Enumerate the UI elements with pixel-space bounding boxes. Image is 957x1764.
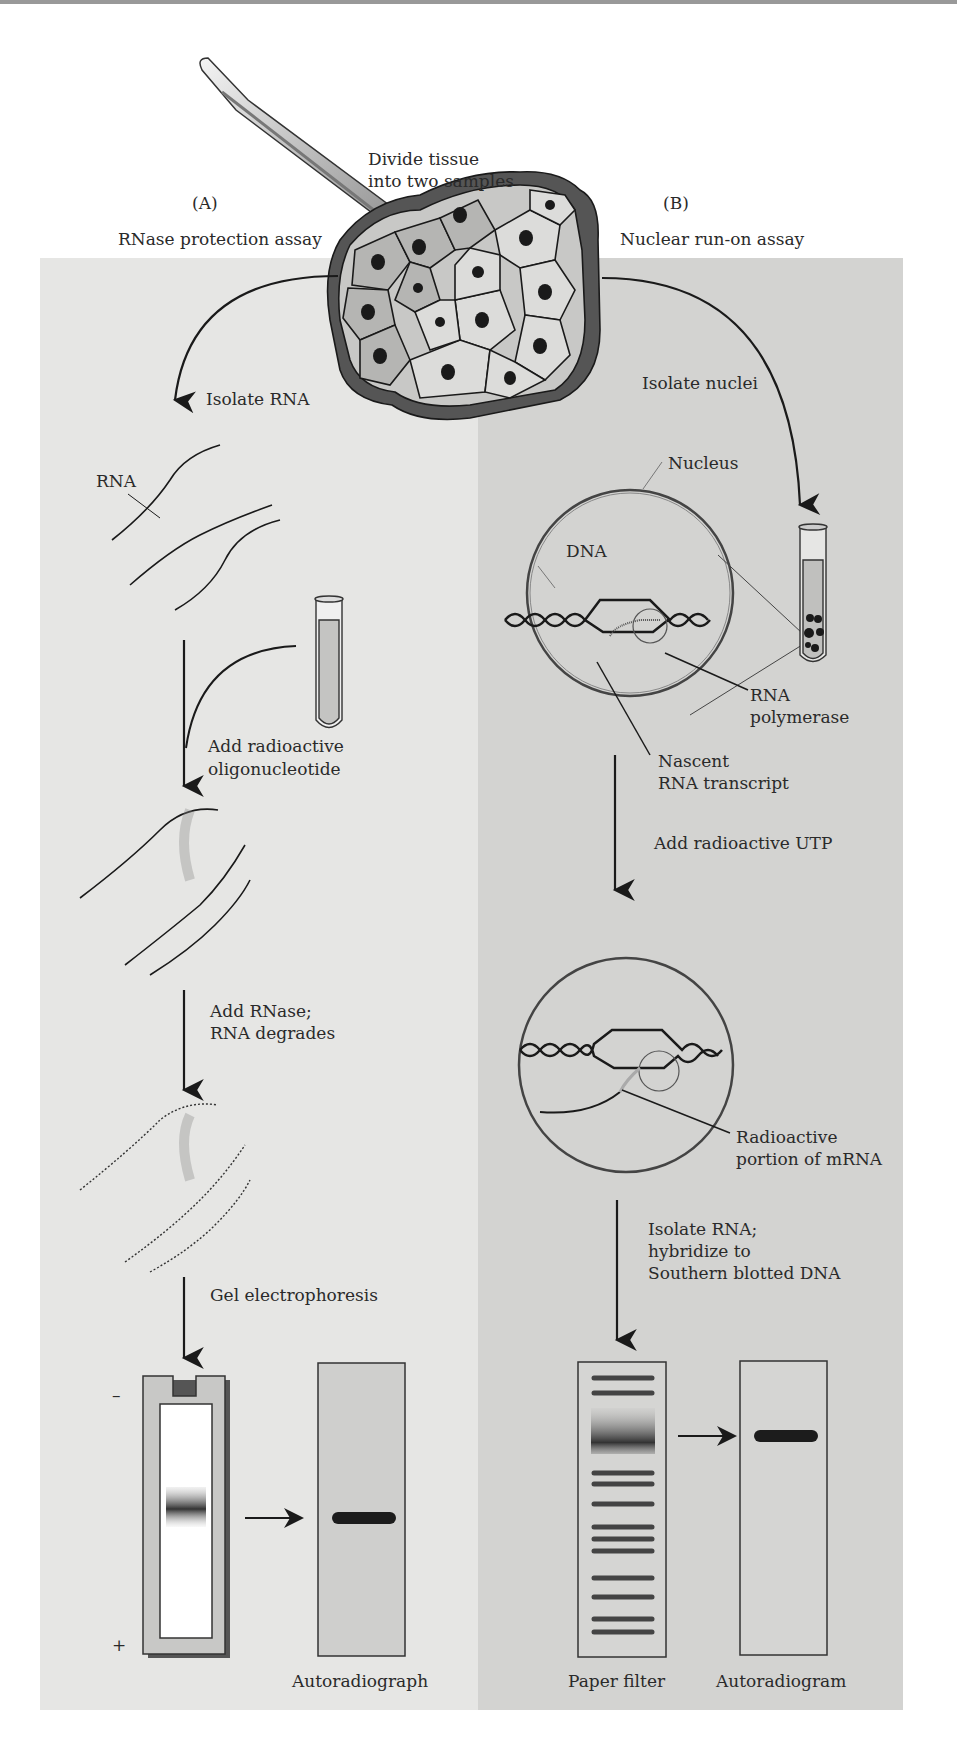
arrow-tube-merge — [186, 646, 296, 748]
rna-leader-line — [128, 494, 160, 518]
arrow-isolate-rna — [175, 276, 338, 400]
gel-minus-sign: – — [112, 1384, 121, 1406]
step-add-utp: Add radioactive UTP — [654, 832, 832, 854]
diagram-artwork — [0, 0, 957, 1764]
radioactive-mrna-label-1: Radioactive — [736, 1126, 837, 1148]
autoradiogram-label: Autoradiogram — [716, 1670, 846, 1692]
panel-b-title: Nuclear run-on assay — [620, 228, 804, 250]
step-hybridize-line-2: hybridize to — [648, 1240, 751, 1262]
nascent-transcript-label-2: RNA transcript — [658, 772, 789, 794]
step-add-oligo-line-2: oligonucleotide — [208, 758, 341, 780]
dna-helix-icon — [505, 600, 710, 632]
panel-b-letter: (B) — [663, 192, 689, 214]
autoradiogram-film-icon — [740, 1361, 827, 1655]
step-gel-electrophoresis: Gel electrophoresis — [210, 1284, 378, 1306]
oligo-tube-icon — [315, 596, 343, 728]
nascent-transcript-label-1: Nascent — [658, 750, 729, 772]
title-line-1: Divide tissue — [368, 148, 479, 170]
paper-filter-icon — [578, 1362, 666, 1657]
step-isolate-nuclei: Isolate nuclei — [642, 372, 758, 394]
nucleus-icon — [527, 462, 802, 715]
step-add-rnase-line-2: RNA degrades — [210, 1022, 335, 1044]
nucleus-label: Nucleus — [668, 452, 739, 474]
degraded-rna-icon — [80, 1104, 250, 1272]
rna-strands-icon — [112, 445, 280, 610]
step-isolate-rna: Isolate RNA — [206, 388, 310, 410]
autoradiograph-label: Autoradiograph — [292, 1670, 428, 1692]
step-hybridize-line-3: Southern blotted DNA — [648, 1262, 841, 1284]
gel-plus-sign: + — [112, 1634, 126, 1656]
rna-hybrid-icon — [80, 809, 250, 975]
rna-label: RNA — [96, 470, 136, 492]
step-add-oligo-line-1: Add radioactive — [208, 735, 344, 757]
step-add-rnase-line-1: Add RNase; — [210, 1000, 312, 1022]
panel-a-letter: (A) — [192, 192, 218, 214]
title-line-2: into two samples — [368, 170, 514, 192]
paper-filter-label: Paper filter — [568, 1670, 665, 1692]
dna-label: DNA — [566, 540, 607, 562]
autoradiograph-film-icon — [318, 1363, 405, 1656]
panel-a-title: RNase protection assay — [118, 228, 322, 250]
gel-cassette-icon — [143, 1376, 230, 1658]
nucleus-radioactive-icon — [519, 958, 733, 1172]
rna-polymerase-label-2: polymerase — [750, 706, 849, 728]
step-hybridize-line-1: Isolate RNA; — [648, 1218, 757, 1240]
radioactive-mrna-label-2: portion of mRNA — [736, 1148, 882, 1170]
rna-polymerase-label-1: RNA — [750, 684, 790, 706]
nuclei-tube-icon — [799, 524, 827, 662]
